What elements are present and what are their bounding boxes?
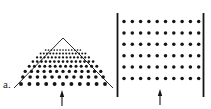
particle-dot	[61, 82, 65, 86]
particle-dot	[27, 82, 31, 86]
particle-dot	[180, 20, 184, 24]
particle-dot	[155, 31, 159, 35]
particle-dot	[38, 65, 41, 68]
particle-dot	[59, 53, 61, 55]
particle-dot	[65, 53, 67, 55]
particle-dot	[95, 82, 99, 86]
particle-dot	[52, 53, 54, 55]
particle-dot	[61, 70, 64, 73]
particle-dot	[81, 53, 83, 55]
particle-dot	[47, 56, 49, 58]
particle-dot	[131, 43, 135, 47]
particle-dot	[180, 77, 184, 81]
particle-dot	[172, 43, 176, 47]
particle-dot	[72, 75, 76, 79]
particle-dot	[40, 56, 42, 58]
particle-dot	[45, 49, 47, 51]
particle-dot	[99, 70, 102, 73]
particle-dot	[66, 56, 68, 58]
force-arrow-left-shape	[60, 90, 64, 106]
particle-dot	[75, 60, 78, 63]
particle-dot	[88, 60, 91, 63]
particle-dot	[75, 53, 77, 55]
particle-dot	[172, 65, 176, 69]
particle-dot	[139, 43, 143, 47]
particle-dot	[172, 20, 176, 24]
particle-dot	[69, 56, 71, 58]
particle-dot	[197, 20, 201, 24]
particle-dot	[94, 75, 98, 79]
particle-dot	[44, 82, 48, 86]
particle-dot	[155, 54, 159, 58]
particle-dot	[84, 56, 86, 58]
particle-dot	[51, 49, 53, 51]
force-arrow-left	[60, 90, 64, 106]
particle-dot	[79, 60, 82, 63]
particle-dot	[49, 70, 52, 73]
particle-dot	[69, 65, 72, 68]
particle-dot	[58, 75, 62, 79]
particle-dot	[55, 70, 58, 73]
particle-dot	[40, 53, 42, 55]
particle-dot	[155, 65, 159, 69]
particle-dot	[43, 56, 45, 58]
particle-dot	[131, 65, 135, 69]
particle-dot	[122, 54, 126, 58]
left-panel-group	[14, 38, 113, 106]
particle-dot	[51, 56, 53, 58]
particle-dot	[189, 77, 193, 81]
particle-dot	[197, 43, 201, 47]
particle-dot	[80, 49, 82, 51]
particle-dot	[189, 31, 193, 35]
particle-dot	[53, 60, 56, 63]
particle-dot	[43, 75, 47, 79]
particle-dot	[164, 65, 168, 69]
particle-dot	[28, 75, 32, 79]
particle-dot	[53, 82, 57, 86]
particle-dot	[139, 54, 143, 58]
figure-container: a.	[0, 0, 211, 109]
particle-dot	[30, 70, 33, 73]
particle-dot	[36, 82, 40, 86]
triangle-dot-array	[19, 49, 107, 86]
particle-dot	[80, 70, 83, 73]
particle-dot	[62, 53, 64, 55]
particle-dot	[21, 75, 25, 79]
particle-dot	[122, 77, 126, 81]
particle-dot	[36, 75, 40, 79]
particle-dot	[164, 31, 168, 35]
particle-dot	[147, 43, 151, 47]
particle-dot	[68, 70, 71, 73]
particle-dot	[70, 60, 73, 63]
particle-dot	[33, 65, 36, 68]
particle-dot	[69, 82, 73, 86]
particle-dot	[180, 31, 184, 35]
particle-dot	[54, 65, 57, 68]
figure-canvas	[0, 0, 211, 109]
particle-dot	[68, 53, 70, 55]
particle-dot	[92, 60, 95, 63]
particle-dot	[74, 70, 77, 73]
particle-dot	[197, 31, 201, 35]
particle-dot	[50, 75, 54, 79]
particle-dot	[189, 20, 193, 24]
particle-dot	[147, 77, 151, 81]
particle-dot	[32, 60, 35, 63]
particle-dot	[180, 43, 184, 47]
particle-dot	[88, 56, 90, 58]
particle-dot	[36, 60, 39, 63]
particle-dot	[85, 65, 88, 68]
particle-dot	[77, 49, 79, 51]
particle-dot	[197, 65, 201, 69]
particle-dot	[122, 65, 126, 69]
particle-dot	[139, 31, 143, 35]
particle-dot	[87, 75, 91, 79]
particle-dot	[80, 56, 82, 58]
particle-dot	[53, 49, 55, 51]
particle-dot	[71, 49, 73, 51]
particle-dot	[189, 65, 193, 69]
particle-dot	[73, 56, 75, 58]
particle-dot	[87, 70, 90, 73]
particle-dot	[147, 20, 151, 24]
lattice-dot-array	[122, 20, 200, 81]
